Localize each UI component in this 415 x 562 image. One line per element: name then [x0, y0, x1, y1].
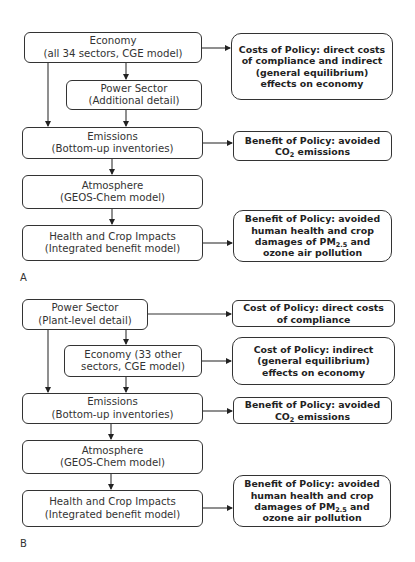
- b-benefit-health-line: damages of PM2.5 and: [254, 501, 370, 512]
- a-benefit-co2-line: CO2 emissions: [275, 146, 350, 157]
- co2-text: CO: [275, 411, 290, 422]
- a-health-title: Health and Crop Impacts: [49, 231, 176, 244]
- a-benefit-co2-line: Benefit of Policy: avoided: [245, 135, 380, 146]
- b-health-subtitle: (Integrated benefit model): [45, 509, 180, 522]
- b-atmosphere-box: Atmosphere (GEOS-Chem model): [22, 440, 203, 474]
- a-power-title: Power Sector: [101, 83, 168, 96]
- b-cost-direct-line: of compliance: [277, 314, 351, 325]
- b-benefit-co2-line: Benefit of Policy: avoided: [245, 399, 380, 410]
- b-health-crop-box: Health and Crop Impacts (Integrated bene…: [22, 490, 203, 527]
- b-cost-indirect-line: (general equilibrium): [257, 355, 369, 366]
- pm-suffix: and: [347, 236, 370, 247]
- b-health-title: Health and Crop Impacts: [49, 496, 176, 509]
- b-economy-subtitle: sectors, CGE model): [81, 361, 185, 374]
- a-costs-line: Costs of Policy: direct costs: [239, 44, 385, 55]
- b-emissions-subtitle: (Bottom-up inventories): [51, 409, 173, 422]
- panel-label-b: B: [20, 538, 27, 549]
- b-cost-indirect-line: effects on economy: [262, 367, 365, 378]
- b-benefit-co2-line: CO2 emissions: [275, 411, 350, 422]
- a-costs-line: (general equilibrium): [256, 67, 368, 78]
- pm-text: damages of PM: [255, 236, 336, 247]
- a-benefit-health-box: Benefit of Policy: avoided human health …: [233, 210, 392, 262]
- co2-text: CO: [275, 146, 290, 157]
- a-emissions-box: Emissions (Bottom-up inventories): [22, 127, 203, 159]
- b-atmosphere-title: Atmosphere: [82, 445, 144, 458]
- a-benefit-health-line: ozone air pollution: [263, 247, 362, 258]
- b-emissions-box: Emissions (Bottom-up inventories): [22, 393, 203, 424]
- panel-label-a: A: [20, 272, 27, 283]
- a-economy-box: Economy (all 34 sectors, CGE model): [24, 32, 202, 63]
- a-costs-line: of compliance and indirect: [242, 55, 383, 66]
- a-emissions-subtitle: (Bottom-up inventories): [51, 143, 173, 156]
- a-atmosphere-subtitle: (GEOS-Chem model): [60, 192, 165, 205]
- a-health-crop-box: Health and Crop Impacts (Integrated bene…: [22, 225, 203, 261]
- a-benefit-health-line: Benefit of Policy: avoided: [245, 213, 380, 224]
- a-health-subtitle: (Integrated benefit model): [45, 243, 180, 256]
- co2-suffix: emissions: [294, 146, 350, 157]
- pm-suffix: and: [347, 501, 370, 512]
- a-costs-of-policy-box: Costs of Policy: direct costs of complia…: [231, 33, 393, 100]
- b-cost-direct-box: Cost of Policy: direct costs of complian…: [232, 300, 395, 327]
- a-benefit-co2-box: Benefit of Policy: avoided CO2 emissions: [233, 131, 392, 161]
- b-benefit-health-line: human health and crop: [251, 490, 374, 501]
- b-benefit-co2-box: Benefit of Policy: avoided CO2 emissions: [233, 397, 392, 424]
- b-power-subtitle: (Plant-level detail): [38, 315, 131, 328]
- b-cost-indirect-box: Cost of Policy: indirect (general equili…: [232, 337, 395, 385]
- b-emissions-title: Emissions: [87, 396, 138, 409]
- b-economy-box: Economy (33 other sectors, CGE model): [64, 345, 202, 377]
- a-atmosphere-title: Atmosphere: [82, 180, 144, 193]
- a-benefit-health-line: human health and crop: [251, 225, 374, 236]
- a-economy-subtitle: (all 34 sectors, CGE model): [43, 48, 182, 61]
- b-power-title: Power Sector: [52, 302, 119, 315]
- b-power-sector-box: Power Sector (Plant-level detail): [22, 299, 148, 330]
- a-costs-line: effects on economy: [261, 78, 364, 89]
- a-power-sector-box: Power Sector (Additional detail): [66, 80, 202, 110]
- pm-text: damages of PM: [254, 501, 335, 512]
- b-atmosphere-subtitle: (GEOS-Chem model): [60, 457, 165, 470]
- b-economy-title: Economy (33 other: [84, 349, 181, 362]
- b-cost-indirect-line: Cost of Policy: indirect: [254, 344, 374, 355]
- b-cost-direct-line: Cost of Policy: direct costs: [243, 302, 384, 313]
- a-benefit-health-line: damages of PM2.5 and: [255, 236, 371, 247]
- b-benefit-health-box: Benefit of Policy: avoided human health …: [233, 475, 391, 527]
- b-benefit-health-line: ozone air pollution: [262, 512, 361, 523]
- a-emissions-title: Emissions: [87, 131, 138, 144]
- a-economy-title: Economy: [90, 35, 137, 48]
- a-power-subtitle: (Additional detail): [89, 95, 180, 108]
- co2-suffix: emissions: [294, 411, 350, 422]
- a-atmosphere-box: Atmosphere (GEOS-Chem model): [22, 175, 203, 209]
- b-benefit-health-line: Benefit of Policy: avoided: [244, 478, 379, 489]
